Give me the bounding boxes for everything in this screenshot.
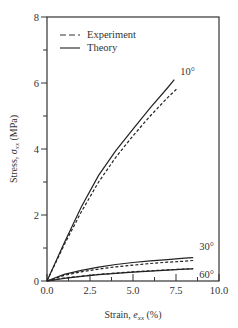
x-tick-label: 0.0 xyxy=(40,285,53,296)
plot-border xyxy=(47,17,219,281)
axis-ticks: 0.02.55.07.510.002468 xyxy=(34,12,228,296)
x-tick-label: 10.0 xyxy=(210,285,228,296)
curve-10deg-solid xyxy=(47,80,174,281)
y-tick-label: 2 xyxy=(34,210,39,221)
y-tick-label: 0 xyxy=(34,276,39,287)
data-curves xyxy=(47,80,193,281)
y-tick-label: 8 xyxy=(34,12,39,23)
stress-strain-chart: 0.02.55.07.510.002468 10°30°60° Experime… xyxy=(0,0,238,328)
plot-frame xyxy=(47,17,219,281)
curve-label-60deg: 60° xyxy=(199,269,214,280)
legend: Experiment Theory xyxy=(60,29,136,53)
y-tick-label: 4 xyxy=(34,144,40,155)
x-axis-title: Strain, exx (%) xyxy=(104,309,161,322)
y-tick-label: 6 xyxy=(34,78,39,89)
curve-labels: 10°30°60° xyxy=(180,66,214,280)
x-tick-label: 7.5 xyxy=(169,285,182,296)
curve-10deg-dashed xyxy=(47,88,178,281)
legend-theory-label: Theory xyxy=(87,42,118,53)
x-tick-label: 5.0 xyxy=(126,285,139,296)
curve-label-10deg: 10° xyxy=(180,66,195,77)
x-tick-label: 2.5 xyxy=(83,285,96,296)
curve-label-30deg: 30° xyxy=(199,241,214,252)
y-axis-title: Stress, σxx (MPa) xyxy=(8,115,21,183)
legend-experiment-label: Experiment xyxy=(87,29,136,40)
